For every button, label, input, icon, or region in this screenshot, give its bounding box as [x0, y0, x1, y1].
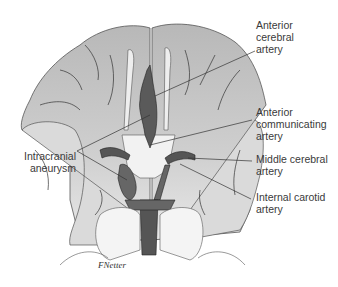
label-line: communicating: [256, 118, 327, 130]
label-line: artery: [256, 165, 328, 177]
label-line: artery: [256, 130, 327, 142]
label-line: Anterior: [256, 106, 327, 118]
label-line: Middle cerebral: [256, 153, 328, 165]
label-line: Intracranial: [4, 150, 76, 162]
label-line: cerebral: [256, 31, 294, 43]
label-anterior-cerebral-artery: Anteriorcerebralartery: [256, 19, 294, 55]
label-anterior-communicating-artery: Anteriorcommunicatingartery: [256, 106, 327, 142]
label-internal-carotid-artery: Internal carotidartery: [256, 191, 325, 215]
label-line: Anterior: [256, 19, 294, 31]
label-intracranial-aneurysm: Intracranialaneurysm: [4, 150, 76, 174]
label-line: artery: [256, 203, 325, 215]
label-middle-cerebral-artery: Middle cerebralartery: [256, 153, 328, 177]
label-line: artery: [256, 43, 294, 55]
artist-signature: FNetter: [97, 260, 126, 270]
label-line: Internal carotid: [256, 191, 325, 203]
label-line: aneurysm: [4, 162, 76, 174]
